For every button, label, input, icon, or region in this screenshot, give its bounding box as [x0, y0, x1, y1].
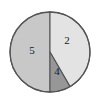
pie-slice-label-2: 2 — [64, 34, 70, 46]
pie-slice-label-4: 4 — [54, 65, 60, 77]
pie-slice-label-5: 5 — [29, 44, 35, 56]
pie-chart-canvas: 5 2 4 — [0, 0, 100, 103]
pie-chart-figure: 5 2 4 — [0, 0, 100, 103]
